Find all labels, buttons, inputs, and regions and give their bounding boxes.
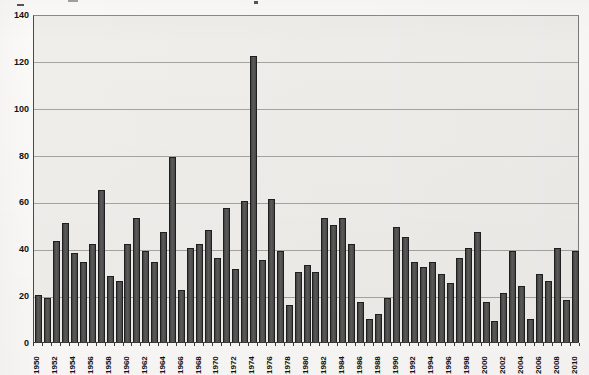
y-axis-tick-label-60: 60 [1, 197, 29, 207]
x-axis-tick-mark [248, 343, 249, 346]
bar-2007 [545, 281, 552, 342]
bar-2003 [509, 251, 516, 342]
bar-1978 [286, 305, 293, 342]
bar-1959 [116, 281, 123, 342]
x-axis-tick-mark [221, 343, 222, 346]
x-axis-tick-mark [185, 343, 186, 346]
y-axis-tick-label-0: 0 [1, 338, 29, 348]
x-axis-tick-label-1980: 1980 [301, 348, 311, 374]
bar-1985 [348, 244, 355, 342]
x-axis-tick-mark [382, 343, 383, 346]
x-axis-tick-label-1992: 1992 [408, 348, 418, 374]
x-axis-tick-mark [418, 343, 419, 346]
y-axis-tick-label-140: 140 [1, 10, 29, 20]
bar-1958 [107, 276, 114, 342]
x-axis-tick-mark [337, 343, 338, 346]
bar-1975 [259, 260, 266, 342]
bar-1968 [196, 244, 203, 342]
bar-1977 [277, 251, 284, 342]
x-axis-tick-mark [140, 343, 141, 346]
x-axis-tick-mark [203, 343, 204, 346]
bar-2002 [500, 293, 507, 342]
x-axis-tick-mark [472, 343, 473, 346]
bar-2009 [563, 300, 570, 342]
x-axis-tick-mark [78, 343, 79, 346]
x-axis-tick-mark [436, 343, 437, 346]
x-axis-tick-label-1958: 1958 [104, 348, 114, 374]
bar-1994 [429, 262, 436, 342]
bar-1956 [89, 244, 96, 342]
x-axis-tick-mark [373, 343, 374, 346]
bar-1982 [321, 218, 328, 342]
bar-1990 [393, 227, 400, 342]
bar-1969 [205, 230, 212, 342]
bar-1965 [169, 157, 176, 342]
x-axis-tick-mark [105, 343, 106, 346]
x-axis-tick-label-1950: 1950 [32, 348, 42, 374]
x-axis-tick-mark [266, 343, 267, 346]
x-axis-tick-mark [355, 343, 356, 346]
clipped-title-fragment [17, 4, 24, 6]
bar-1966 [178, 290, 185, 342]
x-axis-tick-label-1956: 1956 [86, 348, 96, 374]
x-axis-tick-mark [579, 343, 580, 346]
bar-1972 [232, 269, 239, 342]
bar-1989 [384, 298, 391, 343]
bar-1973 [241, 201, 248, 342]
bar-1991 [402, 237, 409, 342]
x-axis-tick-label-1976: 1976 [265, 348, 275, 374]
x-axis-tick-mark [176, 343, 177, 346]
bar-2008 [554, 248, 561, 342]
x-axis-tick-label-1966: 1966 [176, 348, 186, 374]
bar-1960 [124, 244, 131, 342]
x-axis-tick-label-1998: 1998 [462, 348, 472, 374]
y-axis-tick-label-120: 120 [1, 57, 29, 67]
bar-2010 [572, 251, 579, 342]
x-axis-tick-mark [463, 343, 464, 346]
x-axis-tick-mark [552, 343, 553, 346]
x-axis-tick-mark [364, 343, 365, 346]
bar-1987 [366, 319, 373, 342]
x-axis-tick-label-1984: 1984 [337, 348, 347, 374]
bar-1992 [411, 262, 418, 342]
bar-1981 [312, 272, 319, 342]
bar-1999 [474, 232, 481, 342]
x-axis-tick-mark [319, 343, 320, 346]
x-axis-tick-mark [409, 343, 410, 346]
x-axis-tick-mark [42, 343, 43, 346]
x-axis-tick-label-2008: 2008 [552, 348, 562, 374]
x-axis-tick-label-1986: 1986 [355, 348, 365, 374]
bar-1986 [357, 302, 364, 342]
x-axis-tick-mark [51, 343, 52, 346]
x-axis-tick-mark [570, 343, 571, 346]
x-axis-tick-mark [60, 343, 61, 346]
bar-1955 [80, 262, 87, 342]
bar-1967 [187, 248, 194, 342]
x-axis-tick-mark [230, 343, 231, 346]
x-axis-tick-mark [302, 343, 303, 346]
x-axis-tick-mark [507, 343, 508, 346]
gridline-60 [34, 203, 578, 204]
plot-area [33, 15, 579, 343]
x-axis-tick-label-2006: 2006 [534, 348, 544, 374]
x-axis-tick-label-2002: 2002 [498, 348, 508, 374]
x-axis-tick-label-1982: 1982 [319, 348, 329, 374]
bar-1962 [142, 251, 149, 342]
bar-2000 [483, 302, 490, 342]
bar-1953 [62, 223, 69, 342]
x-axis-tick-mark [96, 343, 97, 346]
x-axis-tick-mark [346, 343, 347, 346]
x-axis-tick-mark [284, 343, 285, 346]
bar-1961 [133, 218, 140, 342]
x-axis-tick-label-1988: 1988 [373, 348, 383, 374]
x-axis-tick-mark [543, 343, 544, 346]
gridline-100 [34, 109, 578, 110]
bar-1974 [250, 56, 257, 342]
clipped-title-fragment [68, 0, 78, 2]
gridline-80 [34, 156, 578, 157]
x-axis-tick-label-2010: 2010 [570, 348, 580, 374]
x-axis-tick-mark [158, 343, 159, 346]
x-axis-tick-label-1954: 1954 [68, 348, 78, 374]
x-axis-tick-mark [391, 343, 392, 346]
gridline-120 [34, 62, 578, 63]
